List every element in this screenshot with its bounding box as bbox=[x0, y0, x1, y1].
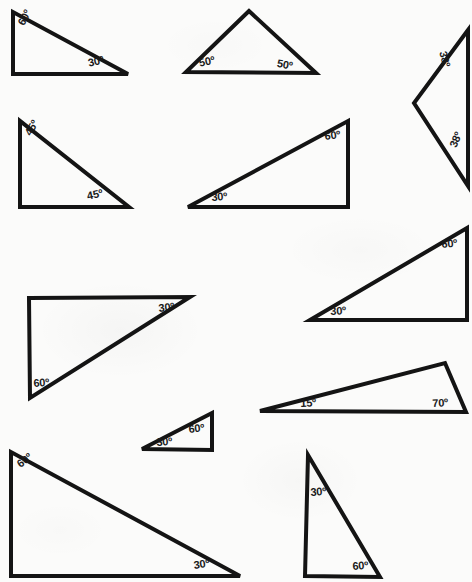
angle-label: 38º bbox=[437, 50, 451, 68]
angle-label: 60º bbox=[324, 129, 341, 142]
right-triangle-60-30-top-left bbox=[13, 12, 128, 74]
right-triangle-45-45-left bbox=[20, 121, 129, 207]
angle-label: 30º bbox=[158, 301, 175, 314]
triangle-figures-group bbox=[0, 0, 472, 582]
angle-label: 60º bbox=[188, 422, 205, 435]
angle-label: 30º bbox=[156, 436, 172, 448]
angle-label: 60º bbox=[352, 560, 368, 572]
angle-label: 30º bbox=[211, 191, 227, 203]
right-triangle-30-60-bottom-right bbox=[305, 455, 380, 577]
angle-label: 70º bbox=[432, 397, 448, 409]
angle-label: 30º bbox=[330, 305, 346, 317]
angle-label: 60º bbox=[33, 377, 49, 389]
angle-label: 30º bbox=[310, 486, 326, 498]
angle-label: 15º bbox=[300, 397, 316, 409]
worksheet-page: 60º30º50º50º38º38º45º45º30º60º30º60º30º6… bbox=[0, 0, 472, 582]
angle-label: 60º bbox=[441, 238, 458, 250]
angle-label: 30º bbox=[193, 558, 210, 571]
